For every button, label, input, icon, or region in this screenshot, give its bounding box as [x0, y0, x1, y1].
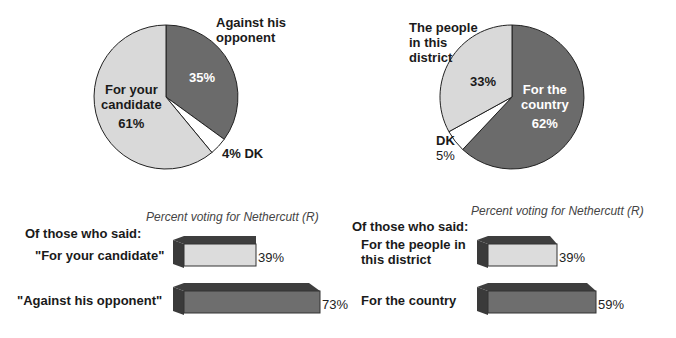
pie1-against-label-line1: Against his [216, 15, 286, 30]
bar2-subtitle: Percent voting for Nethercutt (R) [471, 204, 644, 218]
pie1-for-label-line2: candidate [101, 97, 162, 112]
pie2-country-label-line2: country [521, 97, 569, 112]
pie2-country-pct: 62% [521, 116, 569, 131]
pie1-for-label-line1: For your [101, 82, 162, 97]
bar1-row2-label: "Against his opponent" [17, 293, 162, 308]
pie2-people-label-line2: in this [409, 35, 478, 50]
bar2-row1-label: For the people in this district [361, 237, 466, 267]
bar1-row1-label: "For your candidate" [35, 248, 164, 263]
bar2-row2-pct: 59% [598, 297, 624, 312]
bar2-row2-label: For the country [361, 293, 456, 308]
bar1-row2 [184, 291, 320, 313]
bar-chart-1 [173, 236, 320, 315]
pie2-people-label: The people in this district [409, 20, 478, 65]
pie1-against-label-line2: opponent [216, 30, 286, 45]
bar1-subtitle: Percent voting for Nethercutt (R) [146, 210, 319, 224]
bar2-row1-label-line2: this district [361, 252, 466, 267]
pie1-for-pct: 61% [101, 116, 162, 131]
bar1-row2-pct: 73% [322, 297, 348, 312]
bar2-row2 [488, 291, 596, 313]
pie2-people-pct: 33% [470, 74, 496, 89]
pie1-dk-label: 4% DK [222, 146, 263, 161]
bar2-row1 [488, 244, 557, 266]
pie2-country-label: For the country 62% [521, 82, 569, 131]
chart-graphics [0, 0, 676, 338]
pie2-dk-label: DK 5% [436, 133, 455, 163]
pie2-people-label-line3: district [409, 50, 478, 65]
pie2-dk-pct: 5% [436, 148, 455, 163]
pie2-people-label-line1: The people [409, 20, 478, 35]
bar2-row1-pct: 39% [559, 250, 585, 265]
pie2-country-label-line1: For the [521, 82, 569, 97]
bar2-row1-label-line1: For the people in [361, 237, 466, 252]
bar2-group-label: Of those who said: [352, 219, 468, 234]
pie1-against-pct: 35% [189, 70, 215, 85]
bar1-row1-pct: 39% [258, 250, 284, 265]
pie2-dk-text: DK [436, 133, 455, 148]
bar-chart-2 [477, 236, 596, 315]
pie1-against-label: Against his opponent [216, 15, 286, 45]
bar1-group-label: Of those who said: [25, 226, 141, 241]
pie1-for-label: For your candidate 61% [101, 82, 162, 131]
bar1-row1 [184, 244, 256, 266]
